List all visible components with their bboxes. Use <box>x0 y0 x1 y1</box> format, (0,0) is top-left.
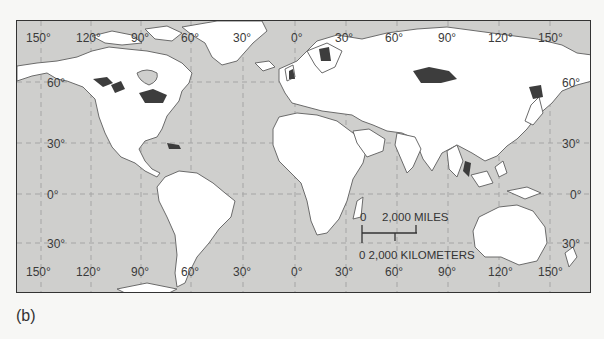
longitude-label: 60° <box>181 265 199 279</box>
longitude-label: 90° <box>131 31 149 45</box>
latitude-label: 30° <box>47 237 65 251</box>
longitude-label: 120° <box>488 31 513 45</box>
figure-caption: (b) <box>16 307 36 325</box>
longitude-label: 150° <box>26 31 51 45</box>
longitude-label: 150° <box>538 31 563 45</box>
longitude-label: 30° <box>335 265 353 279</box>
longitude-label: 150° <box>538 265 563 279</box>
latitude-label: 0° <box>47 188 58 202</box>
latitude-label: 30° <box>562 137 580 151</box>
latitude-label: 30° <box>562 237 580 251</box>
scale-bar <box>362 225 417 243</box>
longitude-label: 120° <box>488 265 513 279</box>
longitude-label: 0° <box>291 265 302 279</box>
longitude-label: 30° <box>233 31 251 45</box>
longitude-label: 90° <box>438 31 456 45</box>
latitude-label: 30° <box>47 137 65 151</box>
longitude-label: 120° <box>76 265 101 279</box>
scale-miles-label: 2,000 MILES <box>382 211 448 223</box>
scale-miles-zero: 0 <box>360 211 366 223</box>
scale-km-label: 0 2,000 KILOMETERS <box>359 249 475 261</box>
latitude-label: 60° <box>47 76 65 90</box>
latitude-label: 0° <box>570 188 581 202</box>
longitude-label: 120° <box>76 31 101 45</box>
latitude-label: 60° <box>562 76 580 90</box>
landmasses <box>17 21 591 293</box>
longitude-label: 60° <box>181 31 199 45</box>
world-map: 150° 120° 90° 60° 30° 0° 30° 60° 90° 120… <box>16 20 591 293</box>
longitude-label: 0° <box>291 31 302 45</box>
longitude-label: 30° <box>335 31 353 45</box>
longitude-label: 150° <box>26 265 51 279</box>
longitude-label: 90° <box>438 265 456 279</box>
longitude-label: 60° <box>385 31 403 45</box>
longitude-label: 30° <box>233 265 251 279</box>
longitude-label: 60° <box>385 265 403 279</box>
longitude-label: 90° <box>131 265 149 279</box>
map-graphic <box>17 21 591 293</box>
